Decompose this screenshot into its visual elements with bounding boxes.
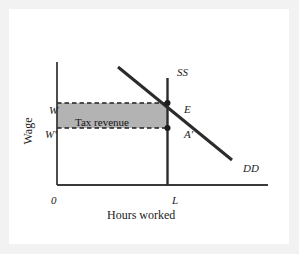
tax-revenue-label: Tax revenue: [75, 117, 129, 128]
x-axis-title: Hours worked: [107, 209, 175, 221]
y-tick-label-wage-gross: W: [49, 105, 58, 116]
supply-curve-label: SS: [177, 67, 188, 78]
x-tick-label-hours: L: [172, 195, 178, 206]
net-wage-point-a-prime: [165, 125, 171, 131]
y-axis-title: Wage: [22, 106, 34, 156]
net-wage-point-label: A': [184, 129, 193, 140]
origin-label: 0: [51, 195, 57, 206]
equilibrium-point-label: E: [184, 104, 191, 115]
demand-curve-label: DD: [243, 163, 259, 174]
figure-frame: Tax revenue W W' 0 L SS DD E A' Wage Hou…: [0, 0, 299, 254]
y-tick-label-wage-net: W': [45, 129, 57, 140]
equilibrium-point-e: [165, 100, 171, 106]
figure-canvas: Tax revenue W W' 0 L SS DD E A' Wage Hou…: [9, 9, 289, 244]
